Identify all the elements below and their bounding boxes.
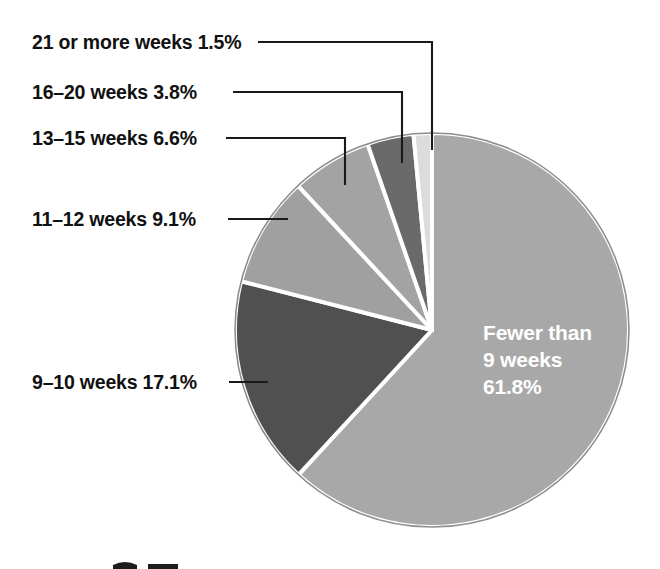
inner-label-line-1: Fewer than	[483, 321, 592, 344]
callout-label-16-20-weeks: 16–20 weeks 3.8%	[32, 81, 197, 103]
pie-chart-figure: 21 or more weeks 1.5% 16–20 weeks 3.8% 1…	[0, 0, 660, 569]
callout-label-11-12-weeks: 11–12 weeks 9.1%	[32, 208, 196, 230]
callout-label-21-or-more-weeks: 21 or more weeks 1.5%	[32, 31, 241, 53]
inner-label-line-3: 61.8%	[483, 375, 542, 398]
callout-label-13-15-weeks: 13–15 weeks 6.6%	[32, 127, 197, 149]
cropped-legend-artifacts	[113, 562, 178, 569]
cropped-marker-square	[148, 564, 178, 569]
inner-label-line-2: 9 weeks	[483, 348, 562, 371]
callout-label-9-10-weeks: 9–10 weeks 17.1%	[32, 371, 197, 393]
pie-chart-svg: 21 or more weeks 1.5% 16–20 weeks 3.8% 1…	[0, 0, 660, 569]
callout-labels: 21 or more weeks 1.5% 16–20 weeks 3.8% 1…	[32, 31, 241, 393]
cropped-marker-circle	[113, 562, 137, 569]
